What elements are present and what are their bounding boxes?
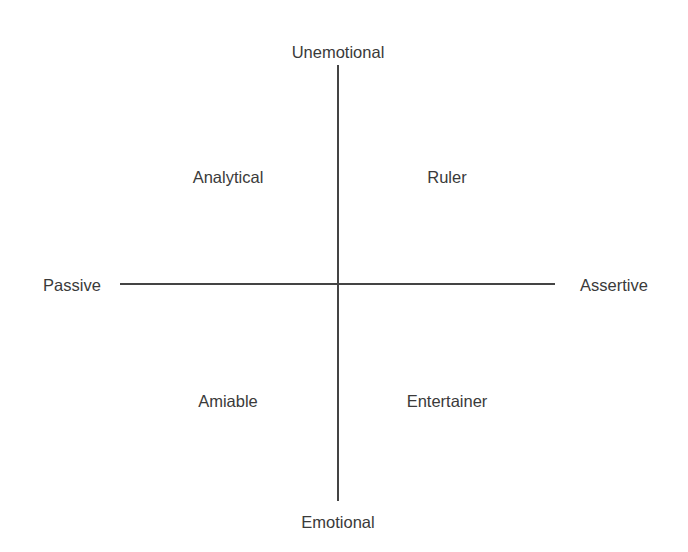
quadrant-label-top-right: Ruler — [427, 169, 466, 186]
axis-label-right: Assertive — [580, 277, 648, 294]
axis-label-bottom: Emotional — [301, 514, 374, 531]
social-style-quadrant-diagram: Unemotional Emotional Passive Assertive … — [0, 0, 688, 552]
quadrant-label-bottom-left: Amiable — [198, 393, 258, 410]
axis-label-top: Unemotional — [292, 44, 385, 61]
vertical-axis-line — [337, 65, 339, 501]
quadrant-label-bottom-right: Entertainer — [407, 393, 488, 410]
axis-label-left: Passive — [43, 277, 101, 294]
quadrant-label-top-left: Analytical — [193, 169, 264, 186]
